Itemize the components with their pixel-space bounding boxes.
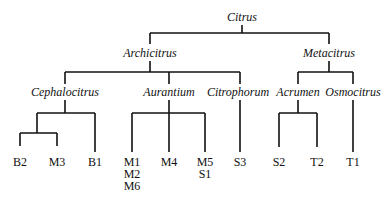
- node-citrophorum: Citrophorum: [207, 85, 270, 99]
- citrus-classification-tree: Citrus Archicitrus Metacitrus Cephalocit…: [0, 0, 390, 198]
- leaf-b2: B2: [13, 155, 27, 169]
- node-archicitrus: Archicitrus: [122, 46, 177, 60]
- edges-metacitrus: [298, 61, 353, 84]
- leaf-s1: S1: [199, 167, 212, 181]
- leaf-m4: M4: [161, 155, 178, 169]
- leaf-m3: M3: [49, 155, 66, 169]
- edges-archicitrus: [65, 61, 240, 84]
- leaf-m6: M6: [124, 179, 141, 193]
- node-metacitrus: Metacitrus: [302, 46, 355, 60]
- edges-citrus: [150, 25, 329, 44]
- edges-cephalocitrus: [20, 100, 95, 152]
- leaf-t2: T2: [310, 155, 323, 169]
- node-cephalocitrus: Cephalocitrus: [31, 85, 99, 99]
- node-citrus: Citrus: [227, 10, 257, 24]
- leaf-b1: B1: [88, 155, 102, 169]
- edges-acrumen: [279, 100, 317, 147]
- leaf-s2: S2: [273, 155, 286, 169]
- node-osmocitrus: Osmocitrus: [325, 85, 381, 99]
- leaf-t1: T1: [346, 155, 359, 169]
- node-aurantium: Aurantium: [142, 85, 195, 99]
- leaf-s3: S3: [234, 155, 247, 169]
- node-acrumen: Acrumen: [275, 85, 319, 99]
- edges-aurantium: [132, 100, 205, 152]
